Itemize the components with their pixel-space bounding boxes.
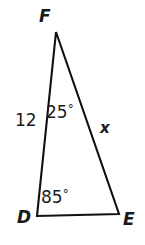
vertex-label-e: E xyxy=(123,211,135,228)
angle-f-value: 25 xyxy=(46,102,68,122)
angle-measure-label-f: 25° xyxy=(46,104,74,121)
geometry-figure: F D E 12 25° 85° x xyxy=(0,0,145,245)
side-length-label-fe: x xyxy=(100,121,110,136)
degree-symbol-icon: ° xyxy=(63,187,69,201)
vertex-label-d: D xyxy=(17,209,31,226)
degree-symbol-icon: ° xyxy=(68,102,74,116)
side-length-label-df: 12 xyxy=(15,112,37,129)
vertex-label-f: F xyxy=(39,8,51,25)
angle-measure-label-d: 85° xyxy=(41,189,69,206)
angle-d-value: 85 xyxy=(41,187,63,207)
